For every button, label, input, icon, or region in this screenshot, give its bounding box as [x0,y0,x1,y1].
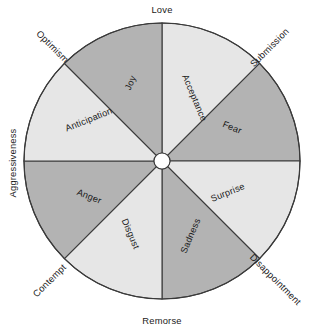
dyad-label-love: Love [151,4,172,15]
dyad-label-submission: Submission [248,26,291,69]
dyad-label-disappointment: Disappointment [248,251,304,307]
center-hub [154,153,170,169]
plutchik-wheel-figure: Acceptance Fear Surprise Sadness Disgust… [0,0,318,332]
wheel-svg: Acceptance Fear Surprise Sadness Disgust… [0,0,318,332]
dyad-label-optimism: Optimism [34,28,71,65]
dyad-label-contempt: Contempt [30,261,68,299]
dyad-label-aggressiveness: Aggressiveness [7,128,18,197]
dyad-label-remorse: Remorse [142,315,181,326]
